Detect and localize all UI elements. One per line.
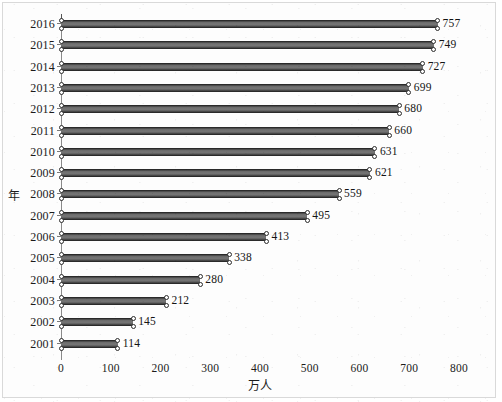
bar-end-marker	[431, 47, 436, 52]
bar-value-label: 280	[205, 273, 223, 285]
y-axis-tick-label: 2001	[0, 338, 55, 351]
bar-end-marker	[115, 346, 120, 351]
bar	[61, 127, 389, 135]
bar-value-label: 212	[171, 294, 189, 306]
x-axis-tick-label: 0	[41, 362, 81, 374]
bar-end-marker	[59, 324, 64, 329]
bar-value-label: 114	[123, 337, 140, 349]
bar-end-marker	[420, 69, 425, 74]
bar	[61, 105, 399, 113]
x-axis-title: 万人	[230, 376, 290, 393]
x-axis-tick-label: 800	[439, 362, 479, 374]
bar-end-marker	[59, 154, 64, 159]
bar-end-marker	[59, 167, 64, 172]
bar	[61, 63, 423, 71]
bar-row: 2001114	[0, 338, 502, 359]
bar-end-marker	[372, 146, 377, 151]
bar-row: 2010631	[0, 146, 502, 167]
bar-end-marker	[264, 239, 269, 244]
bar-end-marker	[59, 346, 64, 351]
bar-end-marker	[59, 282, 64, 287]
bar-end-marker	[59, 274, 64, 279]
bar-end-marker	[59, 252, 64, 257]
horizontal-bar-chart: 2016757201574920147272013699201268020116…	[0, 0, 502, 402]
y-axis-title: 年	[8, 186, 20, 203]
bar-end-marker	[337, 196, 342, 201]
x-axis-tick-label: 200	[141, 362, 181, 374]
bar-row: 2005338	[0, 252, 502, 273]
bar-end-marker	[435, 26, 440, 31]
bar-value-label: 727	[428, 60, 446, 72]
bar-end-marker	[59, 196, 64, 201]
bar-row: 2008559	[0, 188, 502, 209]
bar-row: 2006413	[0, 231, 502, 252]
bar-end-marker	[59, 61, 64, 66]
bar-end-marker	[115, 338, 120, 343]
bar-end-marker	[305, 218, 310, 223]
bar-end-marker	[227, 260, 232, 265]
y-axis-tick-label: 2006	[0, 231, 55, 244]
bar-value-label: 559	[344, 187, 362, 199]
y-axis-tick-label: 2009	[0, 167, 55, 180]
y-axis-tick-label: 2013	[0, 82, 55, 95]
y-axis-tick-label: 2003	[0, 295, 55, 308]
bar-end-marker	[305, 210, 310, 215]
bar-end-marker	[59, 239, 64, 244]
bar-end-marker	[59, 18, 64, 23]
y-axis-tick-label: 2004	[0, 274, 55, 287]
bar-end-marker	[59, 316, 64, 321]
bar-row: 2011660	[0, 125, 502, 146]
bar-value-label: 338	[234, 251, 252, 263]
bar-value-label: 145	[138, 315, 156, 327]
bar-row: 2014727	[0, 61, 502, 82]
bar-end-marker	[59, 39, 64, 44]
bar	[61, 212, 307, 220]
bar-end-marker	[59, 338, 64, 343]
bar	[61, 233, 266, 241]
bar-end-marker	[59, 69, 64, 74]
y-axis-tick-label: 2010	[0, 146, 55, 159]
bar-row: 2016757	[0, 18, 502, 39]
bar-end-marker	[59, 133, 64, 138]
bar-value-label: 749	[439, 38, 457, 50]
bar-value-label: 757	[443, 17, 461, 29]
bar-end-marker	[367, 175, 372, 180]
bar-value-label: 621	[375, 166, 393, 178]
x-axis-tick-label: 400	[240, 362, 280, 374]
y-axis-tick-label: 2016	[0, 18, 55, 31]
bar-end-marker	[59, 303, 64, 308]
y-axis-tick-label: 2005	[0, 252, 55, 265]
bar	[61, 169, 370, 177]
bar-row: 2015749	[0, 39, 502, 60]
bar-end-marker	[131, 324, 136, 329]
bar-end-marker	[59, 295, 64, 300]
bar	[61, 340, 118, 348]
bar	[61, 276, 200, 284]
y-axis-tick-label: 2011	[0, 125, 55, 138]
x-axis-tick-label: 700	[389, 362, 429, 374]
bar	[61, 41, 434, 49]
bar-row: 2009621	[0, 167, 502, 188]
bar-value-label: 495	[312, 209, 330, 221]
bar-end-marker	[59, 210, 64, 215]
y-axis-tick-label: 2014	[0, 61, 55, 74]
bar-end-marker	[131, 316, 136, 321]
bar-end-marker	[435, 18, 440, 23]
bar	[61, 318, 133, 326]
bar-end-marker	[59, 47, 64, 52]
bar-end-marker	[59, 82, 64, 87]
bar-end-marker	[387, 125, 392, 130]
bar	[61, 254, 229, 262]
x-axis-tick-label: 500	[290, 362, 330, 374]
bar-end-marker	[198, 282, 203, 287]
bar-end-marker	[164, 295, 169, 300]
bar-row: 2013699	[0, 82, 502, 103]
bar-end-marker	[59, 218, 64, 223]
bar-value-label: 680	[404, 102, 422, 114]
x-axis-tick-label: 100	[91, 362, 131, 374]
bar-end-marker	[59, 188, 64, 193]
bar-end-marker	[164, 303, 169, 308]
bar-end-marker	[59, 90, 64, 95]
bar-end-marker	[59, 231, 64, 236]
bar	[61, 20, 438, 28]
